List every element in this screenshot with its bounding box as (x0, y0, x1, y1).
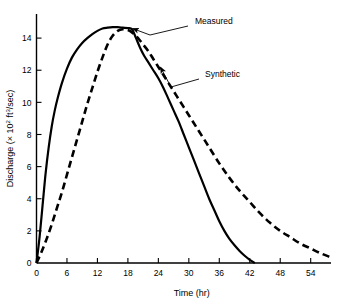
annotation-label-synthetic: Synthetic (205, 69, 241, 79)
y-tick-label: 4 (27, 194, 32, 204)
x-tick-label: 48 (275, 268, 285, 278)
x-tick-label: 24 (154, 268, 164, 278)
annotation-group: MeasuredSynthetic (133, 16, 241, 87)
y-tick-label: 8 (27, 130, 32, 140)
annotation-label-measured: Measured (195, 16, 233, 26)
chart-figure: 061218243036424854 02468101214 MeasuredS… (0, 0, 348, 306)
x-tick-label: 30 (184, 268, 194, 278)
x-tick-label: 42 (245, 268, 255, 278)
y-tick-label: 12 (22, 65, 32, 75)
y-axis-title-suffix: /sec) (5, 90, 15, 110)
annotation-leader-synthetic (160, 67, 199, 87)
annotation-leader-measured (133, 26, 189, 35)
series-line-measured (37, 27, 255, 263)
axes-group (37, 14, 332, 263)
y-tick-label: 6 (27, 162, 32, 172)
series-group (37, 27, 332, 263)
x-tick-label: 54 (306, 268, 316, 278)
x-tick-label: 36 (215, 268, 225, 278)
y-tick-label: 14 (22, 33, 32, 43)
y-axis-title-prefix: Discharge (× 10 (5, 123, 15, 187)
x-tick-label: 18 (123, 268, 133, 278)
x-axis-title: Time (hr) (174, 288, 210, 298)
series-line-synthetic (37, 29, 332, 263)
y-axis-title: Discharge (× 102 ft3/sec) (5, 90, 15, 188)
y-tick-label: 2 (27, 226, 32, 236)
y-tick-group: 02468101214 (22, 33, 41, 268)
x-tick-group: 061218243036424854 (34, 258, 316, 278)
x-tick-label: 6 (65, 268, 70, 278)
x-tick-label: 12 (93, 268, 103, 278)
y-tick-label: 10 (22, 98, 32, 108)
x-tick-label: 0 (34, 268, 39, 278)
hydrograph-chart: 061218243036424854 02468101214 MeasuredS… (0, 0, 348, 306)
y-tick-label: 0 (27, 258, 32, 268)
